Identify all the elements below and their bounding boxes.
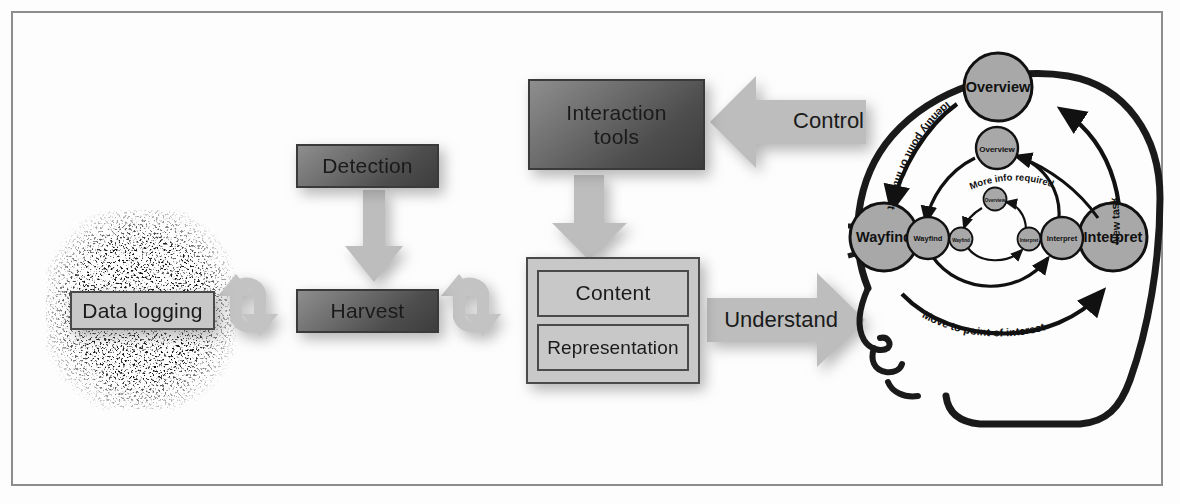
node-overview-outer-label: Overview xyxy=(966,79,1031,95)
interaction-tools-label-line1: Interaction xyxy=(566,101,666,125)
node-wayfind-outer-label: Wayfind xyxy=(856,229,912,245)
edge-label-identify-point-of-interest: Identify point of interest xyxy=(885,100,953,211)
detection-label: Detection xyxy=(322,154,413,178)
data-logging-label: Data logging xyxy=(82,299,202,323)
edge-label-move-to-point-of-interest: Move to point of interest xyxy=(921,308,1047,338)
edge-label-more-info-required: More info required xyxy=(968,171,1056,191)
interaction-tools-label-line2: tools xyxy=(594,125,639,149)
harvest-label: Harvest xyxy=(331,299,405,323)
data-logging-box[interactable]: Data logging xyxy=(70,291,215,330)
sensemaking-loop-diagram: Overview Wayfind Interpret Overview Wayf… xyxy=(830,30,1175,460)
edge-inner-wayfind-to-interpret xyxy=(968,248,1022,260)
edge-inner-overview-to-wayfind xyxy=(964,208,982,228)
edge-inner-interpret-to-overview xyxy=(1006,202,1026,230)
cycle-arrows-icon-1 xyxy=(208,258,288,352)
representation-label: Representation xyxy=(547,337,679,358)
detection-box[interactable]: Detection xyxy=(296,144,439,188)
node-overview-middle-label: Overview xyxy=(979,145,1015,154)
node-wayfind-inner-label: Wayfind xyxy=(952,238,970,243)
interaction-tools-box[interactable]: Interaction tools xyxy=(528,79,705,170)
harvest-box[interactable]: Harvest xyxy=(296,289,439,333)
content-box[interactable]: Content xyxy=(537,270,689,317)
node-wayfind-middle-label: Wayfind xyxy=(914,234,943,243)
understand-arrow-label: Understand xyxy=(716,297,846,343)
down-arrow-tools-to-content xyxy=(547,175,633,263)
content-label: Content xyxy=(576,281,651,305)
cycle-arrows-icon-2 xyxy=(428,258,514,352)
face-features xyxy=(860,288,918,396)
content-representation-group: Content Representation xyxy=(526,257,700,384)
node-interpret-middle-label: Interpret xyxy=(1047,234,1078,243)
edge-overview-to-wayfind xyxy=(892,104,957,208)
edge-mid-overview-to-wayfind xyxy=(926,158,975,222)
figure-canvas: Control Understand Data logging Detectio… xyxy=(0,0,1180,504)
down-arrow-detection-to-harvest xyxy=(341,190,407,286)
representation-box[interactable]: Representation xyxy=(537,324,689,371)
node-overview-inner-label: Overview xyxy=(985,198,1006,203)
node-interpret-inner-label: Interpret xyxy=(1020,238,1039,243)
